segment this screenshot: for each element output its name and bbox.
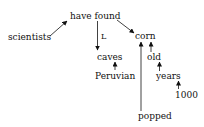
node-popped: popped [138, 111, 172, 121]
node-corn: corn [135, 31, 156, 41]
edge-scientists-have-found [50, 21, 67, 36]
node-years: years [156, 71, 181, 81]
node-peruvian: Peruvian [95, 71, 135, 81]
node-1000: 1000 [175, 90, 198, 100]
edge-label-l: L [101, 32, 106, 42]
node-old: old [147, 52, 161, 62]
node-caves: caves [97, 52, 122, 62]
node-have-found: have found [70, 11, 121, 21]
edge-have-found-corn [117, 20, 134, 33]
node-scientists: scientists [8, 32, 51, 42]
